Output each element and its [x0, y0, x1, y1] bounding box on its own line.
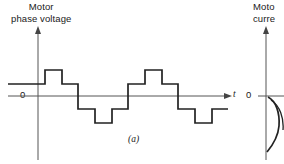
arrow-right-icon: [224, 93, 232, 99]
right-plot-axes: [258, 26, 284, 160]
left-y-axis: [35, 26, 41, 160]
figure-container: Motor phase voltage Moto curre 0 0 t (a): [0, 0, 284, 164]
arrow-up-icon: [35, 26, 41, 34]
arrow-up-icon: [263, 26, 269, 34]
left-x-axis: [8, 93, 232, 99]
figure-canvas: [0, 0, 284, 164]
motor-current-waveform-secondary: [271, 100, 283, 130]
